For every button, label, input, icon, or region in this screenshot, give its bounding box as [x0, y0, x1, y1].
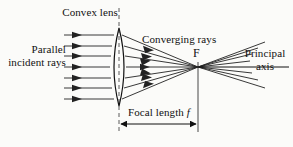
ray-arrowhead-icon [140, 64, 150, 70]
incident-rays-group [64, 35, 114, 99]
optics-ray-diagram: Parallel incident rays Convex lens Conve… [0, 0, 293, 147]
converging-ray [124, 46, 198, 67]
focal-length-text: Focal length [128, 106, 184, 118]
label-principal-axis: Principal axis [240, 47, 290, 73]
incident-ray-arrowheads [72, 32, 82, 102]
label-focal-length: Focal length f [128, 106, 190, 119]
focal-length-symbol: f [187, 106, 190, 118]
ray-arrowhead-icon [72, 85, 82, 91]
ray-arrowhead-icon [72, 96, 82, 102]
converging-ray [122, 67, 198, 99]
ray-arrowhead-icon [72, 32, 82, 38]
label-convex-lens: Convex lens [62, 6, 118, 19]
label-converging-rays: Converging rays [142, 33, 216, 46]
ray-arrowhead-icon [72, 75, 82, 81]
label-focal-point: F [193, 47, 200, 60]
converging-ray [125, 56, 198, 67]
ray-diagram-canvas [0, 0, 293, 147]
ray-arrowhead-icon [72, 53, 82, 59]
ray-arrowhead-icon [72, 43, 82, 49]
converging-ray [125, 67, 198, 78]
converging-ray [124, 67, 198, 88]
ray-arrowhead-icon [72, 64, 82, 70]
label-parallel-incident-rays: Parallel incident rays [4, 43, 66, 69]
